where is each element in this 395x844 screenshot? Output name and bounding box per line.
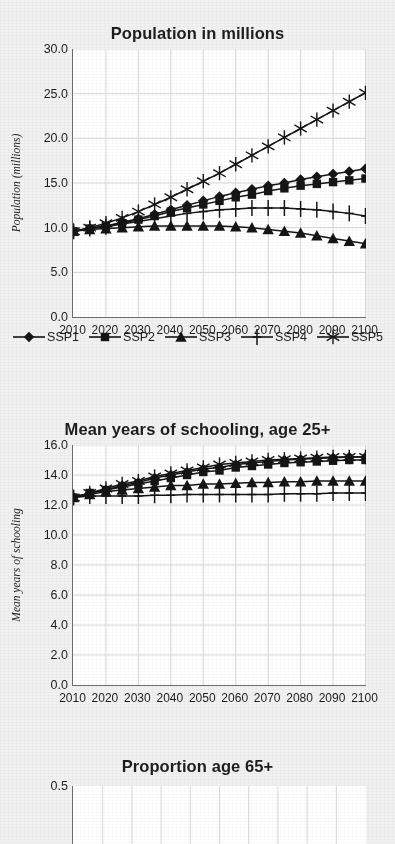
y-tick: 4.0 (51, 618, 68, 632)
y-tick: 8.0 (51, 558, 68, 572)
y-tick: 10.0 (44, 221, 68, 235)
y-tick: 6.0 (51, 588, 68, 602)
chart-title-schooling: Mean years of schooling, age 25+ (0, 398, 395, 439)
x-tick: 2080 (286, 691, 313, 705)
y-tick: 5.0 (51, 265, 68, 279)
x-tick: 2040 (156, 323, 183, 337)
x-tick: 2060 (221, 691, 248, 705)
y-tick: 0.0 (51, 678, 68, 692)
x-tick: 2080 (286, 323, 313, 337)
x-tick: 2040 (156, 691, 183, 705)
y-tick: 12.0 (44, 498, 68, 512)
x-tick: 2050 (189, 691, 216, 705)
x-tick: 2100 (351, 691, 378, 705)
plot-area-population: Population (millions) 30.0 25.0 20.0 15.… (0, 49, 395, 331)
chart-panel-proportion65: Proportion age 65+ 0.5 (0, 743, 395, 843)
chart-title-proportion65: Proportion age 65+ (0, 743, 395, 776)
plot-canvas-schooling (72, 445, 366, 686)
x-tick: 2010 (59, 691, 86, 705)
y-tick: 10.0 (44, 528, 68, 542)
y-tick: 0.5 (51, 779, 68, 793)
x-tick: 2050 (189, 323, 216, 337)
y-tick: 20.0 (44, 131, 68, 145)
y-tick: 30.0 (44, 42, 68, 56)
y-tick: 25.0 (44, 87, 68, 101)
y-tick-labels-schooling: 16.0 14.0 12.0 10.0 8.0 6.0 4.0 2.0 0.0 (22, 445, 68, 685)
x-tick: 2090 (319, 691, 346, 705)
plot-area-proportion65: 0.5 (0, 784, 395, 844)
chart-panel-population: Population in millions Population (milli… (0, 0, 395, 398)
y-tick: 2.0 (51, 648, 68, 662)
chart-panel-schooling: Mean years of schooling, age 25+ Mean ye… (0, 398, 395, 743)
x-tick: 2030 (124, 691, 151, 705)
x-tick: 2070 (254, 691, 281, 705)
x-tick: 2090 (319, 323, 346, 337)
y-tick: 14.0 (44, 468, 68, 482)
x-tick: 2020 (92, 691, 119, 705)
x-tick: 2020 (92, 323, 119, 337)
plot-canvas-population (72, 49, 366, 318)
diamond-marker (12, 329, 46, 345)
y-tick-labels-proportion65: 0.5 (22, 784, 68, 844)
plot-canvas-proportion65 (72, 786, 366, 844)
y-tick: 16.0 (44, 438, 68, 452)
x-tick: 2060 (221, 323, 248, 337)
x-tick: 2100 (351, 323, 378, 337)
plot-area-schooling: Mean years of schooling 16.0 14.0 12.0 1… (0, 445, 395, 715)
y-tick: 15.0 (44, 176, 68, 190)
y-tick-labels-population: 30.0 25.0 20.0 15.0 10.0 5.0 0.0 (22, 49, 68, 317)
x-tick: 2070 (254, 323, 281, 337)
y-tick: 0.0 (51, 310, 68, 324)
x-tick: 2030 (124, 323, 151, 337)
x-tick: 2010 (59, 323, 86, 337)
chart-title-population: Population in millions (0, 0, 395, 43)
